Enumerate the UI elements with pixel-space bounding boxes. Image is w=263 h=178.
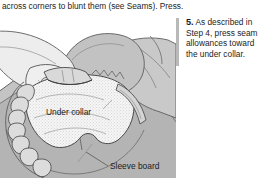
page-root: across corners to blunt them (see Seams)… <box>0 0 263 178</box>
column-divider-rule <box>176 18 179 66</box>
step-5-paragraph: 5. As described in Step 4, press seam al… <box>186 17 261 59</box>
illustration-svg: Under collar Sleeve board <box>0 14 176 178</box>
label-sleeve-board: Sleeve board <box>110 161 160 171</box>
top-body-text: across corners to blunt them (see Seams)… <box>2 1 257 11</box>
illustration-figure: Under collar Sleeve board <box>0 14 176 178</box>
step-number: 5. <box>186 17 194 27</box>
label-under-collar: Under collar <box>46 107 91 117</box>
step-body-text: As described in Step 4, press seam allow… <box>186 17 257 59</box>
